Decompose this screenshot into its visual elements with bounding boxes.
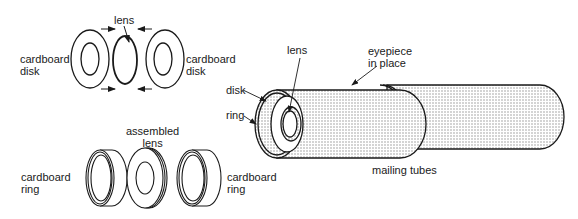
label-mailing-tubes: mailing tubes: [372, 164, 437, 176]
label-ring: ring: [226, 109, 244, 121]
left-cardboard-disk: [71, 30, 109, 88]
lens-element: [113, 36, 137, 84]
right-cardboard-ring: [177, 150, 221, 206]
eyepiece-diagram: cardboard disk lens cardboard disk assem…: [0, 0, 578, 219]
label-cardboard-disk-right: cardboard disk: [186, 53, 236, 77]
label-assembled-lens: assembled lens: [126, 125, 179, 149]
label-cardboard-disk-left: cardboard disk: [20, 53, 70, 77]
label-eyepiece-in-place: eyepiece in place: [368, 45, 412, 69]
diagram-drawing: [0, 0, 578, 219]
label-lens-top: lens: [114, 14, 134, 26]
mailing-tubes: [255, 85, 564, 158]
label-lens-tube: lens: [287, 44, 307, 56]
label-cardboard-ring-right: cardboard ring: [227, 171, 277, 195]
label-disk: disk: [226, 84, 246, 96]
label-cardboard-ring-left: cardboard ring: [21, 171, 71, 195]
right-cardboard-disk: [146, 30, 184, 88]
assembled-lens-ring: [127, 148, 167, 208]
left-cardboard-ring: [86, 150, 127, 206]
